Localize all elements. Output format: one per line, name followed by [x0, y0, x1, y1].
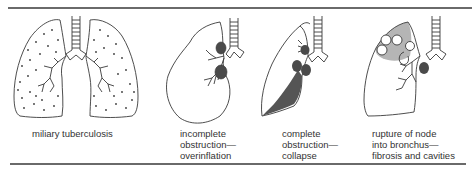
lymph-node-3	[301, 64, 311, 76]
miliary-nodules	[17, 29, 135, 111]
caption-line: obstruction—	[180, 139, 236, 150]
caption-line: complete	[282, 128, 338, 139]
caption-line: miliary tuberculosis	[32, 128, 113, 139]
caption-line: incomplete	[180, 128, 236, 139]
panel-collapse: complete obstruction— collapse	[250, 0, 350, 165]
bottom-rule	[10, 163, 466, 165]
lymph-node-2	[292, 60, 302, 72]
caption-overinflation: incomplete obstruction— overinflation	[180, 128, 236, 161]
miliary-lungs-illustration	[0, 0, 160, 125]
lymph-node-upper	[216, 42, 226, 54]
caption-line: collapse	[282, 150, 338, 161]
lymph-node-1	[301, 45, 310, 55]
caption-cavities: rupture of node into bronchus— fibrosis …	[372, 128, 455, 161]
caption-miliary: miliary tuberculosis	[32, 128, 113, 139]
caption-line: obstruction—	[282, 139, 338, 150]
collapse-lung-illustration	[250, 0, 350, 125]
panel-overinflation: incomplete obstruction— overinflation	[150, 0, 250, 165]
caption-line: fibrosis and cavities	[372, 150, 455, 161]
panel-cavities: rupture of node into bronchus— fibrosis …	[340, 0, 472, 165]
collapsed-lobe	[262, 70, 302, 116]
lymph-node-lower	[215, 65, 227, 79]
caption-line: rupture of node	[372, 128, 455, 139]
panel-miliary-tuberculosis: miliary tuberculosis	[0, 0, 160, 165]
caption-line: overinflation	[180, 150, 236, 161]
caption-line: into bronchus—	[372, 139, 455, 150]
ruptured-node	[419, 62, 429, 74]
overinflation-lung-illustration	[150, 0, 250, 125]
caption-collapse: complete obstruction— collapse	[282, 128, 338, 161]
cavities-lung-illustration	[340, 0, 472, 125]
